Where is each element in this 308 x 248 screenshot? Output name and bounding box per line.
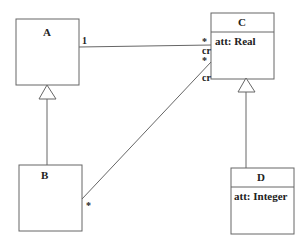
class-c-name: C [238, 17, 246, 28]
multiplicity-a-end: 1 [82, 36, 87, 46]
multiplicity-c-end-b: * [202, 56, 207, 66]
generalization-arrow-c [238, 78, 255, 92]
class-c-attribute: att: Real [215, 36, 256, 47]
class-b-box[interactable] [19, 165, 82, 231]
class-d-attribute: att: Integer [234, 191, 287, 202]
role-c-end-b: cr [202, 73, 211, 83]
generalization-arrow-a [39, 85, 56, 99]
class-a-name: A [43, 27, 51, 38]
class-b-name: B [41, 170, 48, 181]
class-d-name: D [257, 172, 265, 183]
multiplicity-b-end: * [86, 201, 91, 211]
association-line-b-c[interactable] [82, 62, 211, 199]
association-line-a-c[interactable] [79, 45, 211, 47]
